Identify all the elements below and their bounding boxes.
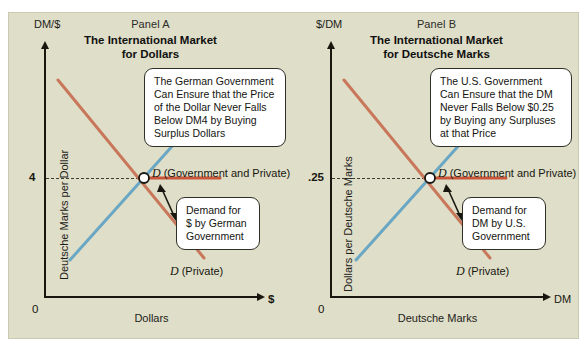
demand-symbol: D <box>152 166 161 180</box>
callout-government-demand: Demand for DM by U.S. Government <box>462 197 546 250</box>
callout-line: Below DM4 by Buying <box>154 114 277 127</box>
callout-line: of the Dollar Never Falls <box>154 101 277 114</box>
callout-line: Can Ensure that the Price <box>154 88 277 101</box>
private-demand-label: D (Private) <box>170 264 223 279</box>
panel-eyebrow: Panel B <box>294 18 579 30</box>
callout-policy-note: The U.S. Government Can Ensure that the … <box>430 68 572 147</box>
panel-eyebrow: Panel A <box>8 18 293 30</box>
callout-line: Government <box>186 230 251 243</box>
origin-label: 0 <box>318 303 324 315</box>
origin-label: 0 <box>32 303 38 315</box>
callout-line: DM by U.S. <box>472 217 537 230</box>
panel-title-line1: The International Market <box>370 34 503 46</box>
demand-symbol: D <box>456 264 465 278</box>
demand-qualifier: (Private) <box>182 265 224 277</box>
callout-line: Demand for <box>186 204 251 217</box>
demand-symbol: D <box>170 264 179 278</box>
private-demand-label: D (Private) <box>456 264 509 279</box>
x-axis-title: Deutsche Marks <box>330 312 545 324</box>
callout-line: at that Price <box>440 127 563 140</box>
demand-qualifier: (Government and Private) <box>164 167 291 179</box>
demand-symbol: D <box>438 166 447 180</box>
demand-qualifier: (Private) <box>468 265 510 277</box>
demand-qualifier: (Government and Private) <box>450 167 577 179</box>
y-tick-label: .25 <box>308 171 324 183</box>
callout-line: $ by German <box>186 217 251 230</box>
callout-line: Surplus Dollars <box>154 127 277 140</box>
equilibrium-point <box>425 173 435 183</box>
figure-canvas: DM/$ Panel A The International Market fo… <box>8 12 579 339</box>
callout-line: The U.S. Government <box>440 75 563 88</box>
callout-line: Never Falls Below $0.25 <box>440 101 563 114</box>
callout-line: by Buying any Surpluses <box>440 114 563 127</box>
panel-b: $/DM Panel B The International Market fo… <box>294 12 579 339</box>
government-private-demand-label: D (Government and Private) <box>438 166 576 181</box>
panel-title-line1: The International Market <box>84 34 217 46</box>
government-private-demand-label: D (Government and Private) <box>152 166 290 181</box>
x-axis-title: Dollars <box>44 312 259 324</box>
callout-line: Demand for <box>472 204 537 217</box>
callout-policy-note: The German Government Can Ensure that th… <box>144 68 286 147</box>
callout-line: Government <box>472 230 537 243</box>
y-tick-label: 4 <box>29 171 35 183</box>
callout-government-demand: Demand for $ by German Government <box>176 197 260 250</box>
panel-a: DM/$ Panel A The International Market fo… <box>8 12 293 339</box>
figure-root: DM/$ Panel A The International Market fo… <box>0 0 587 352</box>
callout-line: Can Ensure that the DM <box>440 88 563 101</box>
callout-line: The German Government <box>154 75 277 88</box>
equilibrium-point <box>139 173 149 183</box>
